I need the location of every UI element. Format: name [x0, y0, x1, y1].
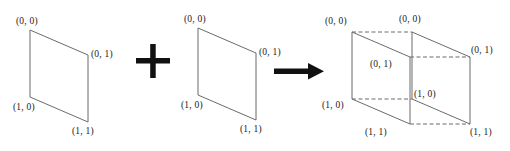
box-back-face	[412, 32, 470, 124]
left-label-1-1: (1, 1)	[72, 127, 94, 137]
box-label-front-bottom-left: (1, 0)	[322, 101, 344, 111]
diagram-canvas: (0, 0) (0, 1) (1, 0) (1, 1) (0, 0) (0, 1…	[0, 0, 510, 151]
middle-parallelogram	[198, 28, 256, 120]
box-label-front-bottom-right: (1, 1)	[365, 128, 387, 138]
left-parallelogram	[30, 30, 88, 122]
box-label-back-bottom-left: (1, 0)	[414, 90, 436, 100]
left-label-0-0: (0, 0)	[16, 17, 38, 27]
box-label-back-bottom-right: (1, 1)	[470, 128, 492, 138]
box-label-front-top-right: (0, 1)	[370, 60, 392, 70]
middle-label-0-1: (0, 1)	[259, 48, 281, 58]
middle-label-0-0: (0, 0)	[184, 15, 206, 25]
middle-label-1-0: (1, 0)	[181, 101, 203, 111]
arrow-head	[308, 63, 324, 80]
plus-operator	[136, 44, 170, 78]
box-label-back-top-right: (0, 1)	[471, 46, 493, 56]
middle-parallelogram-outline	[198, 28, 256, 120]
plus-vertical-bar	[150, 44, 156, 78]
middle-label-1-1: (1, 1)	[240, 125, 262, 135]
left-parallelogram-outline	[30, 30, 88, 122]
arrow-shaft	[274, 69, 312, 75]
box-label-front-top-left: (0, 0)	[325, 17, 347, 27]
result-box	[352, 32, 470, 124]
left-label-0-1: (0, 1)	[91, 50, 113, 60]
arrow-operator	[274, 63, 324, 80]
box-front-face	[352, 32, 410, 124]
left-label-1-0: (1, 0)	[13, 103, 35, 113]
box-label-back-top-left: (0, 0)	[399, 15, 421, 25]
